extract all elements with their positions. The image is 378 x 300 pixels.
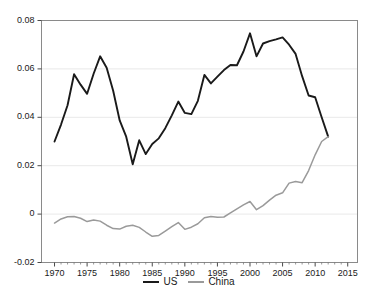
legend-entry-china: China (188, 277, 234, 287)
y-tick-label: 0 (0, 208, 35, 218)
y-tick-label: -0.02 (0, 257, 35, 267)
y-tick-label: 0.08 (0, 15, 35, 25)
series-line-us (55, 33, 329, 164)
chart-legend: US China (0, 277, 378, 287)
legend-label-china: China (208, 277, 234, 287)
plot-frame (42, 21, 358, 263)
y-tick-label: 0.04 (0, 111, 35, 121)
legend-swatch-us (143, 281, 159, 283)
legend-entry-us: US (143, 277, 177, 287)
x-tick-label: 2015 (328, 268, 368, 278)
series-line-china (55, 137, 329, 237)
y-tick-label: 0.02 (0, 160, 35, 170)
y-tick-label: 0.06 (0, 63, 35, 73)
plot-area (0, 0, 378, 300)
legend-swatch-china (188, 281, 204, 283)
chart-figure: 0.080.060.040.020-0.02 19701975198019851… (0, 0, 378, 300)
legend-label-us: US (163, 277, 177, 287)
